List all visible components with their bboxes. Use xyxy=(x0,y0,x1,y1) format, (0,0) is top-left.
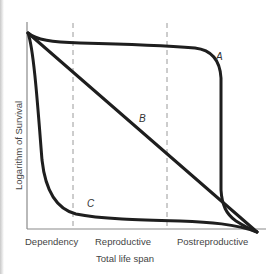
curve-a-label: A xyxy=(215,51,223,62)
curve-b-label: B xyxy=(139,113,146,124)
curve-c-label: C xyxy=(87,198,95,209)
x-tick-reproductive: Reproductive xyxy=(95,236,151,247)
x-tick-dependency: Dependency xyxy=(25,236,79,247)
x-tick-postreproductive: Postreproductive xyxy=(177,236,248,247)
x-axis-title: Total life span xyxy=(96,253,154,264)
curve-b xyxy=(28,33,257,232)
survivorship-chart: A B C Dependency Reproductive Postreprod… xyxy=(0,0,274,274)
y-axis-title: Logarithm of Survival xyxy=(13,101,24,190)
